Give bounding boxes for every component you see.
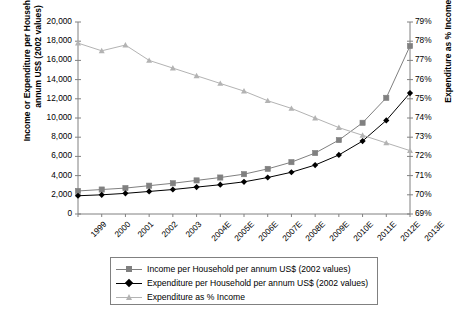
chart-legend: Income per Household per annum US$ (2002… — [110, 257, 378, 305]
legend-label: Expenditure as % Income — [142, 292, 245, 302]
square-marker — [116, 263, 142, 275]
chart-container: Income or Expenditure per Household per … — [0, 0, 472, 324]
triangle-marker — [116, 291, 142, 303]
legend-item[interactable]: Expenditure per Household per annum US$ … — [111, 276, 377, 290]
diamond-marker — [116, 277, 142, 289]
legend-label: Income per Household per annum US$ (2002… — [142, 264, 351, 274]
legend-label: Expenditure per Household per annum US$ … — [142, 278, 368, 288]
legend-item[interactable]: Expenditure as % Income — [111, 290, 377, 304]
legend-item[interactable]: Income per Household per annum US$ (2002… — [111, 262, 377, 276]
